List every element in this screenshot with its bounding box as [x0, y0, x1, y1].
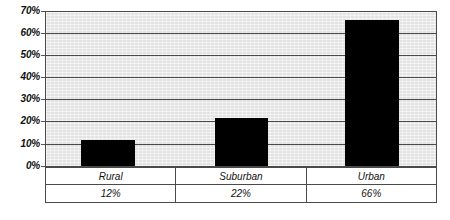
bar-rural	[81, 140, 135, 167]
table-cell-value-rural: 12%	[46, 185, 176, 202]
y-tick-label-20: 20%	[0, 116, 40, 126]
bar-urban	[345, 20, 399, 167]
table-row-categories: Rural Suburban Urban	[46, 168, 436, 185]
y-tick-label-60: 60%	[0, 28, 40, 38]
y-tick-label-30: 30%	[0, 94, 40, 104]
bar-chart-figure: 70% 60% 50% 40% 30% 20% 10% 0% Rural	[0, 0, 450, 220]
table-cell-category-rural: Rural	[46, 168, 176, 184]
y-axis: 70% 60% 50% 40% 30% 20% 10% 0%	[0, 0, 40, 175]
table-cell-value-urban: 66%	[307, 185, 436, 202]
plot-area	[45, 11, 437, 167]
data-table: Rural Suburban Urban 12% 22% 66%	[45, 167, 437, 203]
y-tick-label-10: 10%	[0, 139, 40, 149]
table-cell-value-suburban: 22%	[176, 185, 306, 202]
table-cell-category-suburban: Suburban	[176, 168, 306, 184]
y-tick-label-0: 0%	[0, 161, 40, 171]
y-tick-label-50: 50%	[0, 50, 40, 60]
table-row-values: 12% 22% 66%	[46, 185, 436, 202]
y-tick-label-70: 70%	[0, 6, 40, 16]
table-cell-category-urban: Urban	[307, 168, 436, 184]
bar-suburban	[215, 118, 268, 167]
y-tick-label-40: 40%	[0, 72, 40, 82]
